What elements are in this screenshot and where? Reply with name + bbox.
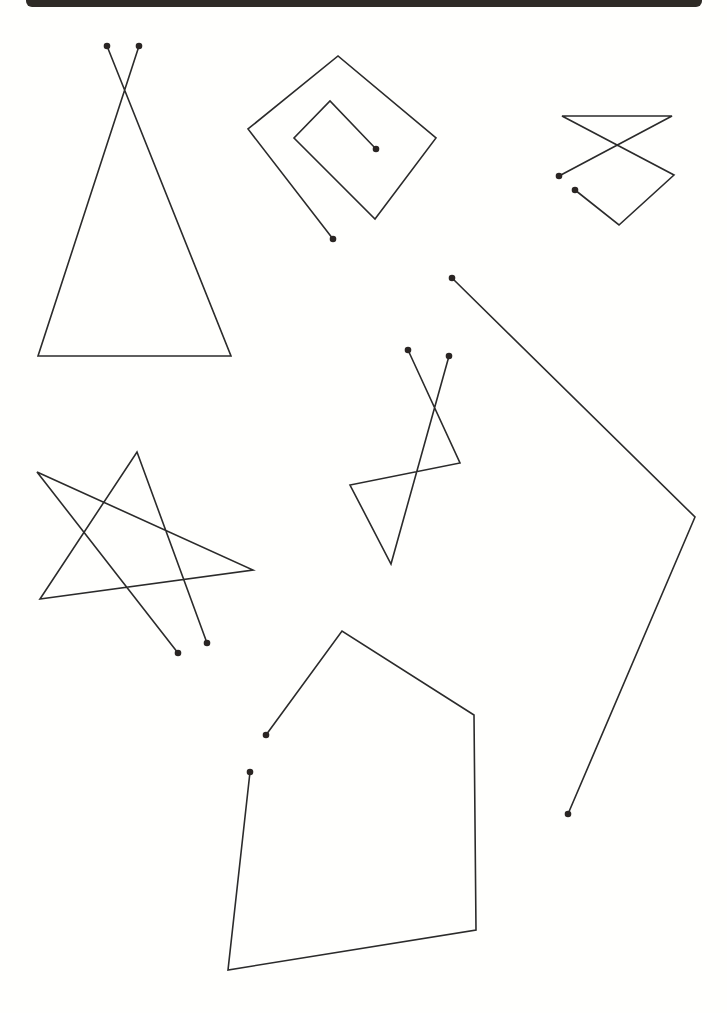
end-dot bbox=[373, 146, 380, 153]
figure-triangle bbox=[38, 43, 231, 356]
start-dot bbox=[556, 173, 563, 180]
line-path bbox=[452, 278, 695, 814]
figure-figure-eight bbox=[350, 347, 460, 564]
end-dot bbox=[446, 353, 453, 360]
line-path bbox=[559, 116, 674, 225]
line-path bbox=[248, 56, 436, 239]
end-dot bbox=[565, 811, 572, 818]
end-dot bbox=[104, 43, 111, 50]
figure-square-spiral bbox=[248, 56, 436, 242]
line-path bbox=[38, 46, 231, 356]
drawing-canvas bbox=[0, 0, 727, 1013]
figure-star bbox=[37, 452, 253, 656]
figure-pentagon bbox=[228, 631, 476, 970]
line-path bbox=[350, 350, 460, 564]
start-dot bbox=[330, 236, 337, 243]
end-dot bbox=[204, 640, 211, 647]
figure-angle-line bbox=[449, 275, 695, 818]
start-dot bbox=[449, 275, 456, 282]
line-path bbox=[228, 631, 476, 970]
start-dot bbox=[263, 732, 270, 739]
end-dot bbox=[247, 769, 254, 776]
start-dot bbox=[175, 650, 182, 657]
end-dot bbox=[572, 187, 579, 194]
start-dot bbox=[405, 347, 412, 354]
start-dot bbox=[136, 43, 143, 50]
line-path bbox=[37, 452, 253, 653]
figure-hourglass bbox=[556, 116, 674, 225]
